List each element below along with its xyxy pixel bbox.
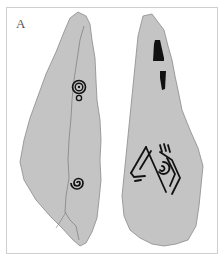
stones-drawing bbox=[0, 0, 224, 262]
left-stone bbox=[20, 12, 101, 246]
right-stone bbox=[122, 14, 203, 246]
